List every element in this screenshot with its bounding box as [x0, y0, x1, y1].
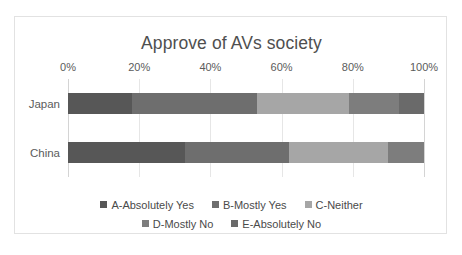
legend-item[interactable]: A-Absolutely Yes	[100, 199, 194, 211]
y-category-label: China	[30, 147, 60, 159]
bar-segment	[68, 93, 132, 114]
x-tick-label: 0%	[60, 61, 76, 73]
chart-title: Approve of AVs society	[15, 33, 448, 54]
y-axis-category-labels: JapanChina	[15, 79, 64, 177]
x-tick-label: 80%	[342, 61, 364, 73]
legend-item[interactable]: D-Mostly No	[142, 218, 214, 230]
bar-segment	[399, 93, 424, 114]
legend-label: B-Mostly Yes	[223, 199, 287, 211]
legend-item[interactable]: B-Mostly Yes	[212, 199, 287, 211]
bar-segment	[68, 142, 185, 163]
legend-label: D-Mostly No	[153, 218, 214, 230]
bar-row	[68, 93, 424, 114]
y-category-label: Japan	[29, 98, 60, 110]
chart-container: Approve of AVs society 0%20%40%60%80%100…	[14, 16, 447, 234]
x-tick-label: 20%	[128, 61, 150, 73]
bar-segment	[349, 93, 399, 114]
bar-segment	[388, 142, 424, 163]
gridline-100%	[424, 79, 425, 177]
legend-label: E-Absolutely No	[242, 218, 321, 230]
x-tick-label: 40%	[199, 61, 221, 73]
legend-label: C-Neither	[316, 199, 363, 211]
x-tick-label: 100%	[410, 61, 438, 73]
legend-label: A-Absolutely Yes	[111, 199, 194, 211]
legend-item[interactable]: C-Neither	[305, 199, 363, 211]
legend-swatch-icon	[305, 201, 312, 208]
legend-item[interactable]: E-Absolutely No	[231, 218, 321, 230]
bar-segment	[289, 142, 389, 163]
legend-row: A-Absolutely YesB-Mostly YesC-Neither	[15, 195, 448, 214]
bar-segment	[185, 142, 288, 163]
bar-row	[68, 142, 424, 163]
legend-row: D-Mostly NoE-Absolutely No	[15, 214, 448, 233]
legend-swatch-icon	[142, 220, 149, 227]
legend-swatch-icon	[212, 201, 219, 208]
x-axis-tick-labels: 0%20%40%60%80%100%	[68, 61, 424, 77]
plot-area	[68, 79, 424, 177]
chart-legend: A-Absolutely YesB-Mostly YesC-NeitherD-M…	[15, 195, 448, 233]
bar-segment	[132, 93, 257, 114]
legend-swatch-icon	[100, 201, 107, 208]
bar-segment	[257, 93, 350, 114]
legend-swatch-icon	[231, 220, 238, 227]
x-tick-label: 60%	[271, 61, 293, 73]
